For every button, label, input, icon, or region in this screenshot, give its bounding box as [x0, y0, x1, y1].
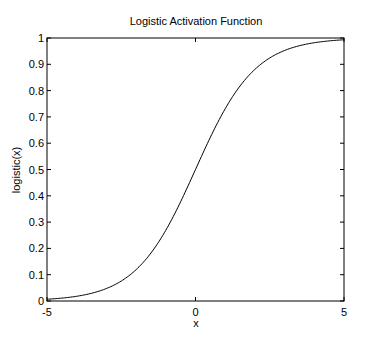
y-tick-label: 0.2: [29, 242, 44, 254]
chart: Logistic Activation Function 00.10.20.30…: [0, 0, 365, 350]
y-axis: 00.10.20.30.40.50.60.70.80.91: [29, 32, 344, 307]
x-tick-label: 5: [341, 306, 347, 318]
y-tick-label: 0.8: [29, 85, 44, 97]
y-tick-label: 0.4: [29, 190, 44, 202]
y-tick-label: 0.6: [29, 137, 44, 149]
y-tick-label: 0.5: [29, 164, 44, 176]
y-axis-label: logistic(x): [10, 147, 22, 193]
x-tick-label: -5: [42, 306, 52, 318]
y-tick-label: 0.1: [29, 269, 44, 281]
x-axis-label: x: [193, 317, 199, 329]
y-tick-label: 1: [38, 32, 44, 44]
y-tick-label: 0.3: [29, 216, 44, 228]
logistic-curve: [47, 40, 344, 299]
y-tick-label: 0.9: [29, 58, 44, 70]
chart-title: Logistic Activation Function: [130, 15, 263, 27]
x-axis: -505: [42, 38, 347, 318]
y-tick-label: 0.7: [29, 111, 44, 123]
